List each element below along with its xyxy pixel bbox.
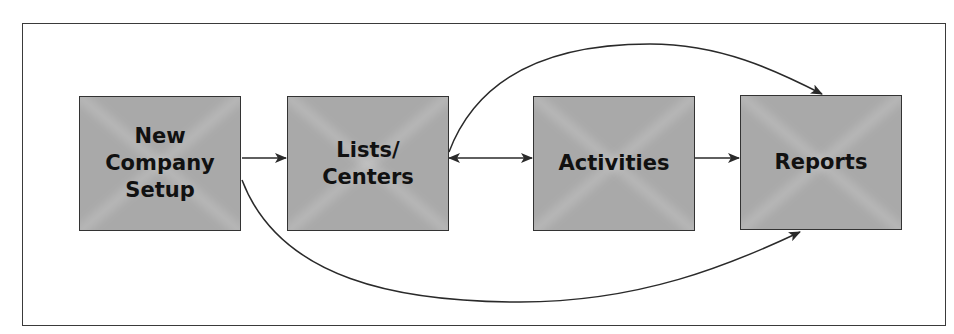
node-label: Reports bbox=[775, 149, 868, 176]
node-label: Lists/ Centers bbox=[322, 137, 414, 191]
node-label: Activities bbox=[559, 150, 670, 177]
node-lists-centers: Lists/ Centers bbox=[287, 96, 449, 231]
node-label: New Company Setup bbox=[105, 123, 215, 204]
node-activities: Activities bbox=[533, 96, 695, 231]
node-reports: Reports bbox=[740, 95, 902, 230]
node-new-company-setup: New Company Setup bbox=[79, 96, 241, 231]
